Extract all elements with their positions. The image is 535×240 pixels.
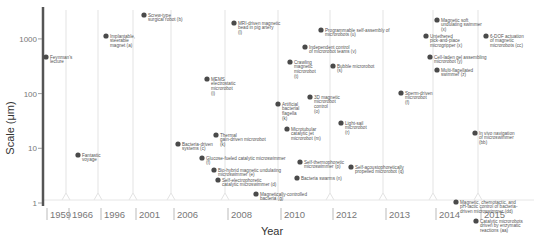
point-label: (l) — [238, 30, 243, 35]
point-marker — [43, 54, 48, 59]
y-tick-label: 1000 — [19, 35, 37, 44]
point-marker — [231, 20, 236, 25]
data-point: Sperm-drivenmicrorobot(f) — [398, 90, 433, 105]
data-point: Programmable self-assembly ofmicrorobots… — [318, 27, 390, 37]
point-marker — [211, 167, 216, 172]
point-label: gain-driven microrobot — [220, 137, 266, 142]
data-point: Implantable,steerablemagnet (a) — [103, 33, 135, 48]
point-label: bead in pig artery — [238, 25, 274, 30]
point-marker — [348, 164, 353, 169]
x-tick-label: 2012 — [336, 209, 357, 220]
x-tick-label: 2014 — [439, 209, 460, 220]
point-marker — [141, 12, 146, 17]
data-point: Bacteria swarms (n) — [294, 175, 342, 180]
data-point: MEMSelectrostaticmicrorobot(i) — [204, 76, 236, 96]
point-label: magnet (a) — [110, 43, 133, 48]
point-label: microrobot (m) — [291, 136, 321, 141]
point-label: microgripper (x) — [430, 43, 463, 48]
point-label: voyage — [82, 157, 97, 162]
point-label: microrobots (u) — [325, 32, 356, 37]
point-marker — [302, 44, 307, 49]
data-point: 6-DOF actuationof magneticmicrorobots (c… — [483, 33, 524, 48]
column-divider — [474, 10, 482, 200]
point-marker — [287, 59, 292, 64]
data-point: Glucose-fueled catalytic microswimmer(f) — [199, 155, 286, 165]
x-tick-label: 2010 — [284, 209, 305, 220]
point-marker — [199, 155, 204, 160]
point-marker — [427, 54, 432, 59]
point-marker — [284, 126, 289, 131]
point-marker — [215, 177, 220, 182]
point-label: systems (c) — [182, 146, 206, 151]
point-marker — [253, 191, 258, 196]
column-divider — [94, 10, 102, 200]
x-axis: 1959196619962001200620082010201220132014… — [47, 208, 505, 220]
point-label: (t) — [294, 74, 299, 79]
data-point: Independent controlof microrobot teams (… — [302, 44, 356, 54]
data-point: Bubble microrobot(s) — [330, 63, 375, 73]
point-label: swimmer (z) — [441, 72, 466, 77]
data-point: Bacteria-drivensystems (c) — [175, 141, 213, 151]
data-point: Catalytic microrobotsdriven by enzymatic… — [473, 218, 523, 233]
data-point: Light-sailmicrorobot(r) — [338, 120, 367, 135]
data-point: Magnetic, chemotactic, andpH-tactic cont… — [453, 199, 518, 214]
point-label: (x) — [441, 27, 447, 32]
x-tick-label: 2013 — [389, 209, 410, 220]
data-point: In vivo navigationof microswimmer(bb) — [472, 130, 515, 145]
y-tick-label: 100 — [24, 90, 38, 99]
point-label: microrobots (cc) — [490, 43, 523, 48]
point-marker — [103, 33, 108, 38]
point-label: reactions (aa) — [480, 228, 509, 233]
point-label: undulating swimmer — [441, 22, 482, 27]
point-marker — [338, 120, 343, 125]
point-label: (i) — [211, 91, 216, 96]
data-point: Self-electrophoreticcatalytic microswimm… — [215, 177, 276, 187]
data-point: Bio-hybrid magnetic undulatingmicroswimm… — [211, 167, 281, 177]
point-marker — [453, 199, 458, 204]
point-marker — [204, 76, 209, 81]
point-marker — [307, 94, 312, 99]
point-label: Bubble microrobot — [337, 64, 375, 69]
y-tick-label: 10 — [28, 144, 37, 153]
point-label: propelled microrobot (q) — [355, 169, 404, 174]
point-label: microrobot (y) — [434, 59, 463, 64]
data-point: Microtubularcatalytic jetmicrorobot (m) — [284, 126, 321, 141]
point-marker — [473, 218, 478, 223]
data-point: Magnetic softundulating swimmer(x) — [434, 17, 482, 32]
data-point: 3D magneticmicrorobotcontrol(o) — [307, 94, 340, 114]
point-marker — [398, 90, 403, 95]
data-point: Screw-typesurgical robot (b) — [141, 12, 183, 22]
x-tick-label: 1959 — [50, 209, 71, 220]
x-tick-label: 2006 — [177, 209, 198, 220]
point-marker — [434, 67, 439, 72]
point-label: (k) — [282, 116, 288, 121]
data-point: Feynman'slecture — [43, 54, 73, 64]
point-label: Glucose-fueled catalytic microswimmer — [206, 156, 286, 161]
point-marker — [297, 159, 302, 164]
x-tick-label: 2001 — [139, 209, 160, 220]
x-tick-label: 1996 — [104, 209, 125, 220]
data-point: Thermalgain-driven microrobot(k) — [213, 132, 266, 147]
point-label: lecture — [50, 59, 64, 64]
data-point: Self-thermophoreticmicroswimmer (p) — [297, 159, 344, 169]
timeline-scatter-chart: 1101001000 19591966199620012006200820102… — [0, 0, 535, 240]
point-marker — [434, 17, 439, 22]
point-marker — [294, 175, 299, 180]
point-marker — [483, 33, 488, 38]
point-marker — [213, 132, 218, 137]
point-marker — [423, 33, 428, 38]
point-label: (k) — [220, 142, 226, 147]
point-label: microswimmer (p) — [304, 164, 341, 169]
point-label: bacteria (g) — [260, 196, 284, 201]
data-point: Artificialbacterialflagella(k) — [275, 101, 299, 121]
point-marker — [175, 141, 180, 146]
point-label: (f) — [405, 100, 410, 105]
data-point: MRI-driven magneticbead in pig artery(l) — [231, 20, 281, 35]
column-divider — [167, 10, 175, 200]
x-tick-label: 2008 — [231, 209, 252, 220]
column-divider — [129, 10, 137, 200]
y-axis: 1101001000 — [19, 7, 43, 208]
point-label: Bacteria swarms (n) — [301, 176, 342, 181]
point-marker — [75, 152, 80, 157]
point-marker — [472, 130, 477, 135]
